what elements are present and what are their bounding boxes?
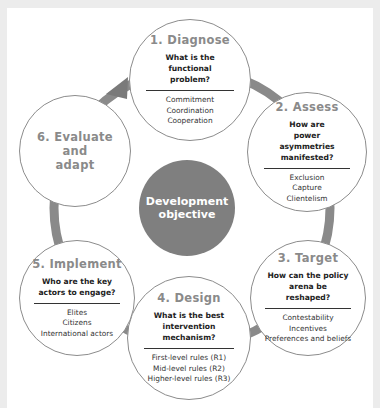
- divider: [264, 168, 350, 169]
- center-line-1: Development: [146, 195, 228, 208]
- step-design: 4. Design What is the best intervention …: [127, 276, 251, 400]
- step-assess: 2. Assess How are power asymmetries mani…: [247, 92, 367, 212]
- step-item: Clientelism: [286, 194, 327, 205]
- step-item: Cooperation: [166, 116, 214, 127]
- center-line-2: objective: [159, 208, 216, 221]
- step-question: Who are the key actors to engage?: [33, 276, 121, 298]
- step-item: Contestability: [265, 313, 351, 324]
- step-title: 2. Assess: [275, 100, 338, 114]
- step-item: Incentives: [265, 324, 351, 335]
- step-title: 1. Diagnose: [150, 33, 230, 47]
- divider: [265, 308, 351, 309]
- step-title-line: and: [62, 144, 87, 158]
- step-question: What is the best intervention mechanism?: [137, 310, 241, 343]
- divider: [34, 303, 120, 304]
- divider: [146, 90, 234, 91]
- divider: [144, 348, 234, 349]
- step-item: Commitment: [166, 95, 214, 106]
- step-item: Capture: [286, 183, 327, 194]
- step-question: How can the policy arena be reshaped?: [262, 270, 354, 303]
- step-evaluate-and-adapt: 6. Evaluate and adapt: [19, 95, 131, 207]
- step-title: 3. Target: [278, 251, 338, 265]
- step-title-line: 6. Evaluate: [37, 130, 113, 144]
- step-item: Elites: [41, 308, 113, 319]
- step-target: 3. Target How can the policy arena be re…: [250, 240, 366, 356]
- step-diagnose: 1. Diagnose What is the functional probl…: [129, 19, 251, 141]
- step-title-line: adapt: [56, 158, 95, 172]
- diagram-canvas: Development objective 1. Diagnose What i…: [7, 8, 373, 408]
- step-implement: 5. Implement Who are the key actors to e…: [19, 240, 135, 356]
- step-title: 5. Implement: [32, 257, 122, 271]
- step-question: What is the functional problem?: [144, 52, 236, 85]
- step-item: Citizens: [41, 318, 113, 329]
- step-item: Coordination: [166, 106, 214, 117]
- step-item: Mid-level rules (R2): [148, 364, 231, 375]
- step-title: 4. Design: [157, 291, 221, 305]
- step-item: Higher-level rules (R3): [148, 374, 231, 385]
- development-objective-circle: Development objective: [139, 160, 235, 256]
- step-item: First-level rules (R1): [148, 353, 231, 364]
- step-item: Exclusion: [286, 173, 327, 184]
- step-question: How are power asymmetries manifested?: [273, 119, 341, 163]
- step-item: Preferences and beliefs: [265, 334, 351, 345]
- step-item: International actors: [41, 329, 113, 340]
